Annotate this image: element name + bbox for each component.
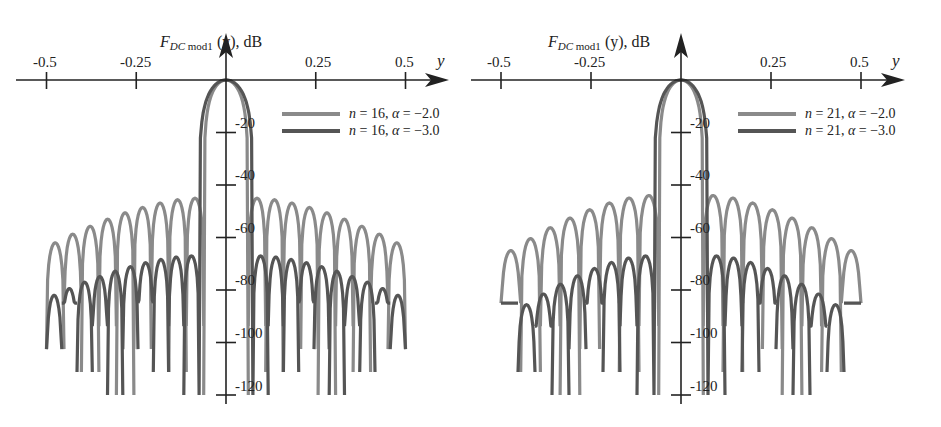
y-tick-label: -100: [690, 326, 718, 341]
y-tick-label: -80: [690, 273, 710, 288]
x-tick-label: 0.25: [760, 55, 786, 70]
y-tick-label: -60: [235, 221, 255, 236]
y-tick-label: -40: [690, 168, 710, 183]
legend-label: n = 21, α = −2.0: [805, 106, 896, 122]
x-tick-label: -0.25: [574, 55, 605, 70]
y-tick-label: -20: [235, 116, 255, 131]
y-tick-label: -40: [235, 168, 255, 183]
x-tick-label: 0.25: [305, 55, 331, 70]
legend-swatch: [282, 112, 340, 116]
x-tick-label: -0.5: [487, 55, 511, 70]
legend-label: n = 21, α = −3.0: [805, 123, 896, 139]
y-tick-label: -20: [690, 116, 710, 131]
legend-label: n = 16, α = −3.0: [349, 123, 440, 139]
legend-swatch: [282, 129, 340, 133]
y-tick-label: -100: [235, 326, 263, 341]
y-tick-label: -120: [235, 379, 263, 394]
chart-right: FDC mod1 (y), dB y -0.5 -0.25 0.25 0.5 -…: [455, 0, 925, 427]
y-axis-label: FDC mod1 (y), dB: [160, 34, 262, 52]
x-tick-label: -0.25: [120, 55, 151, 70]
x-tick-label: 0.5: [395, 55, 414, 70]
x-axis-label: y: [437, 52, 445, 69]
y-axis-label: FDC mod1 (y), dB: [548, 34, 650, 52]
x-axis-label: y: [892, 52, 900, 69]
x-tick-label: -0.5: [33, 55, 57, 70]
y-tick-label: -60: [690, 221, 710, 236]
y-tick-label: -80: [235, 273, 255, 288]
legend-swatch: [738, 129, 796, 133]
legend-swatch: [738, 112, 796, 116]
legend-label: n = 16, α = −2.0: [349, 106, 440, 122]
y-tick-label: -120: [690, 379, 718, 394]
x-tick-label: 0.5: [850, 55, 869, 70]
chart-left: FDC mod1 (y), dB y -0.5 -0.25 0.25 0.5 -…: [0, 0, 470, 427]
